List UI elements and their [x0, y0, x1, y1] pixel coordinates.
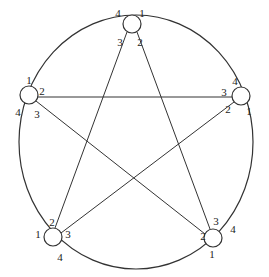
port-label: 1 — [35, 228, 41, 240]
port-label: 4 — [115, 7, 121, 19]
port-label: 2 — [137, 36, 143, 48]
port-label: 3 — [213, 215, 219, 227]
network-diagram: 41321243432121343241 — [0, 0, 269, 277]
port-label: 4 — [230, 223, 236, 235]
port-label: 3 — [65, 228, 71, 240]
port-label: 3 — [221, 86, 227, 98]
nodes-group: 41321243432121343241 — [15, 7, 252, 263]
port-label: 1 — [139, 7, 145, 19]
port-label: 1 — [209, 248, 215, 260]
node-top: 4132 — [115, 7, 145, 48]
node-circle — [232, 87, 250, 105]
node-bottom-right: 3241 — [200, 215, 236, 260]
port-label: 1 — [246, 105, 252, 117]
node-circle — [204, 229, 222, 247]
edge-left-bottom-right — [36, 101, 205, 234]
edges-group — [36, 32, 234, 234]
port-label: 4 — [57, 251, 63, 263]
port-label: 4 — [232, 75, 238, 87]
port-label: 3 — [34, 108, 40, 120]
node-right: 4321 — [221, 75, 252, 117]
edge-top-bottom-left — [55, 32, 127, 228]
node-bottom-left: 2134 — [35, 216, 71, 263]
port-label: 3 — [117, 36, 123, 48]
port-label: 4 — [15, 106, 21, 118]
port-label: 1 — [26, 74, 32, 86]
edge-top-bottom-right — [137, 32, 210, 229]
port-label: 2 — [39, 85, 45, 97]
node-circle — [44, 228, 62, 246]
edge-bottom-left-right — [61, 102, 234, 233]
port-label: 2 — [49, 216, 55, 228]
node-circle — [20, 86, 38, 104]
port-label: 2 — [225, 103, 231, 115]
port-label: 2 — [200, 230, 206, 242]
